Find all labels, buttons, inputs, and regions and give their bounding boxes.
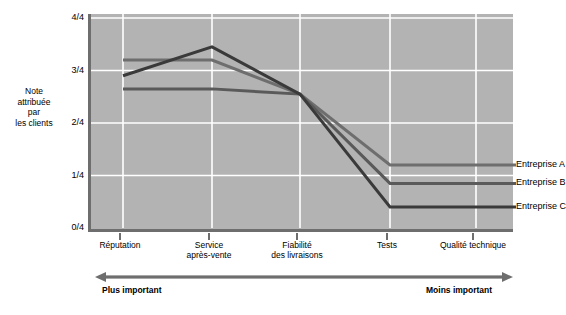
importance-label-left: Plus important <box>102 285 162 295</box>
y-tick-label-3-4: 3/4 <box>58 65 84 75</box>
y-axis-title: Note attribuée par les clients <box>2 86 66 128</box>
y-axis-title-line-3: par <box>2 107 66 118</box>
x-tick-label-line: Fiabilité <box>271 240 323 250</box>
y-axis-title-line-1: Note <box>2 86 66 97</box>
importance-label-right: Moins important <box>426 285 492 295</box>
x-axis-tick-mark <box>472 233 474 240</box>
legend-item-entreprise-a: Entreprise A <box>516 159 565 169</box>
legend-item-entreprise-c: Entreprise C <box>516 201 566 211</box>
y-tick-label-4-4: 4/4 <box>58 12 84 22</box>
y-axis-title-line-2: attribuée <box>2 97 66 108</box>
x-axis-tick-mark <box>119 233 121 240</box>
x-tick-label-service-apres-vente: Serviceaprès-vente <box>187 240 232 261</box>
y-axis-title-line-4: les clients <box>2 118 66 129</box>
x-tick-label-line: Réputation <box>99 240 140 250</box>
x-tick-label-tests: Tests <box>377 240 397 250</box>
y-tick-label-2-4: 2/4 <box>58 117 84 127</box>
x-tick-label-line: des livraisons <box>271 250 323 260</box>
x-axis-tick-mark <box>296 233 298 240</box>
legend-item-entreprise-b: Entreprise B <box>516 177 566 187</box>
plot-area <box>88 14 513 232</box>
y-tick-label-1-4: 1/4 <box>58 170 84 180</box>
importance-arrow-glyph <box>95 272 513 282</box>
x-tick-label-line: après-vente <box>187 250 232 260</box>
x-axis-tick-mark <box>386 233 388 240</box>
series-line-2 <box>123 89 516 184</box>
x-tick-label-qualite-technique: Qualité technique <box>440 240 506 250</box>
x-tick-label-reputation: Réputation <box>99 240 140 250</box>
x-tick-label-fiabilite-des-livraisons: Fiabilitédes livraisons <box>271 240 323 261</box>
x-tick-label-line: Tests <box>377 240 397 250</box>
plot-canvas <box>91 14 516 232</box>
x-axis-tick-mark <box>208 233 210 240</box>
importance-arrow <box>95 268 513 278</box>
x-tick-label-line: Qualité technique <box>440 240 506 250</box>
y-tick-label-0-4: 0/4 <box>58 222 84 232</box>
x-tick-label-line: Service <box>187 240 232 250</box>
